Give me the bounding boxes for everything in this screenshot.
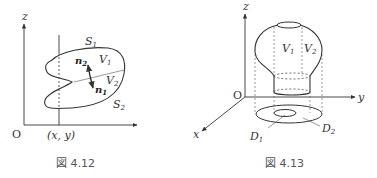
surface-s2-label: S2 bbox=[113, 98, 126, 112]
figure-caption: 図 4.12 bbox=[56, 157, 95, 170]
region-v1-label: V1 bbox=[99, 53, 111, 67]
region-v2-label: V2 bbox=[304, 42, 317, 56]
figure-4-12: z O (x, y) S1 S2 V1 V2 n2 n1 図 4.12 bbox=[12, 10, 137, 170]
x-axis-label: x bbox=[193, 128, 200, 141]
z-axis-label: z bbox=[21, 10, 28, 23]
figures-canvas: z O (x, y) S1 S2 V1 V2 n2 n1 図 4.12 z y … bbox=[0, 0, 377, 178]
base-ellipse-front bbox=[274, 92, 310, 95]
origin-label: O bbox=[233, 89, 242, 102]
x-axis bbox=[202, 97, 245, 131]
domain-d1-label: D1 bbox=[249, 130, 263, 144]
surface-s1-label: S1 bbox=[85, 35, 97, 49]
origin-label: O bbox=[12, 128, 21, 141]
domain-d2-label: D2 bbox=[321, 122, 336, 136]
bulb-surface bbox=[255, 25, 322, 92]
z-axis-label: z bbox=[242, 0, 249, 13]
figure-4-13: z y x O V1 V2 D1 D2 図 4.13 bbox=[193, 0, 365, 170]
point-label: (x, y) bbox=[47, 129, 75, 142]
normal-n2-label: n2 bbox=[75, 55, 87, 68]
domain-d1-inner bbox=[274, 110, 296, 117]
domain-d2-outer bbox=[256, 105, 322, 123]
normal-n2-arrow bbox=[88, 65, 90, 76]
figure-caption: 図 4.13 bbox=[265, 157, 304, 170]
region-v1-label: V1 bbox=[282, 42, 294, 56]
region-v2-label: V2 bbox=[106, 74, 119, 88]
y-axis-label: y bbox=[357, 91, 365, 104]
neck-ellipse-dashed-top bbox=[274, 73, 310, 76]
neck-ellipse-bottom-front bbox=[274, 76, 310, 79]
base-ellipse-back bbox=[274, 89, 310, 92]
top-opening bbox=[277, 22, 301, 28]
